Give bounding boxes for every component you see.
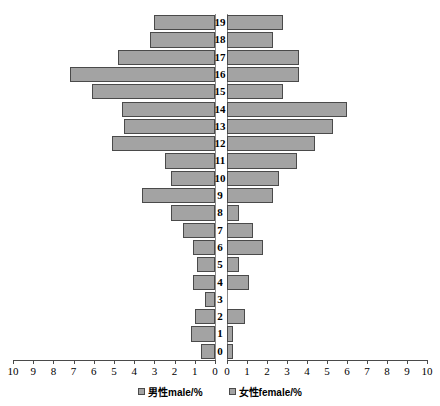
bar-female-age-11[interactable] (227, 153, 297, 168)
bar-male-age-9[interactable] (142, 188, 215, 203)
y-axis-tick-label-age-3: 3 (209, 291, 231, 308)
table-row: 12 (0, 135, 440, 152)
y-axis-tick-label-age-6: 6 (209, 239, 231, 256)
y-axis-tick-label-age-15: 15 (209, 83, 231, 100)
legend-label-female: 女性female/% (239, 384, 302, 399)
table-row: 2 (0, 308, 440, 325)
x-axis-tick-left-5 (114, 360, 115, 364)
x-axis-label-right-1: 1 (237, 365, 257, 377)
bar-male-age-19[interactable] (154, 15, 215, 30)
table-row: 16 (0, 66, 440, 83)
x-axis-tick-left-2 (175, 360, 176, 364)
x-axis-label-left-2: 2 (165, 365, 185, 377)
x-axis-tick-right-5 (327, 360, 328, 364)
bar-male-age-18[interactable] (150, 32, 215, 47)
y-axis-tick-label-age-16: 16 (209, 66, 231, 83)
y-axis-tick-label-age-13: 13 (209, 118, 231, 135)
bar-male-age-16[interactable] (70, 67, 215, 82)
table-row: 11 (0, 152, 440, 169)
table-row: 13 (0, 118, 440, 135)
bar-female-age-19[interactable] (227, 15, 283, 30)
table-row: 19 (0, 14, 440, 31)
x-axis-tick-right-6 (347, 360, 348, 364)
x-axis-label-left-9: 9 (23, 365, 43, 377)
x-axis-label-right-8: 8 (377, 365, 397, 377)
y-axis-tick-label-age-7: 7 (209, 222, 231, 239)
x-axis-label-left-4: 4 (124, 365, 144, 377)
x-axis-tick-right-2 (267, 360, 268, 364)
bar-female-age-6[interactable] (227, 240, 263, 255)
bar-female-age-14[interactable] (227, 102, 347, 117)
x-axis-tick-right-4 (307, 360, 308, 364)
x-axis-label-right-10: 10 (417, 365, 437, 377)
x-axis-tick-right-10 (427, 360, 428, 364)
bar-female-age-9[interactable] (227, 188, 273, 203)
bar-female-age-13[interactable] (227, 119, 333, 134)
y-axis-tick-label-age-4: 4 (209, 274, 231, 291)
table-row: 0 (0, 343, 440, 360)
y-axis-tick-label-age-9: 9 (209, 187, 231, 204)
x-axis-label-left-5: 5 (104, 365, 124, 377)
bar-male-age-17[interactable] (118, 50, 215, 65)
table-row: 1 (0, 325, 440, 342)
plot-area: 012345678910111213141516171819 (0, 0, 440, 362)
y-axis-tick-label-age-10: 10 (209, 170, 231, 187)
bar-male-age-15[interactable] (92, 84, 215, 99)
table-row: 6 (0, 239, 440, 256)
x-axis-label-right-6: 6 (337, 365, 357, 377)
table-row: 7 (0, 222, 440, 239)
x-axis-tick-left-1 (195, 360, 196, 364)
x-axis-tick-right-0 (227, 360, 228, 364)
x-axis-label-left-10: 10 (3, 365, 23, 377)
y-axis-tick-label-age-5: 5 (209, 256, 231, 273)
y-axis-tick-label-age-17: 17 (209, 49, 231, 66)
bar-male-age-13[interactable] (124, 119, 215, 134)
x-axis-tick-right-9 (407, 360, 408, 364)
y-axis-tick-label-age-14: 14 (209, 101, 231, 118)
x-axis-label-right-5: 5 (317, 365, 337, 377)
table-row: 14 (0, 101, 440, 118)
x-axis-tick-right-3 (287, 360, 288, 364)
table-row: 15 (0, 83, 440, 100)
x-axis-label-right-9: 9 (397, 365, 417, 377)
x-axis-tick-left-7 (74, 360, 75, 364)
x-axis-tick-left-8 (53, 360, 54, 364)
bar-female-age-15[interactable] (227, 84, 283, 99)
y-axis-tick-label-age-1: 1 (209, 325, 231, 342)
x-axis-label-right-2: 2 (257, 365, 277, 377)
table-row: 8 (0, 204, 440, 221)
bar-male-age-12[interactable] (112, 136, 215, 151)
bar-female-age-12[interactable] (227, 136, 315, 151)
table-row: 10 (0, 170, 440, 187)
x-axis-label-left-1: 1 (185, 365, 205, 377)
table-row: 17 (0, 49, 440, 66)
legend-swatch-female-icon (229, 388, 236, 395)
y-axis-tick-label-age-19: 19 (209, 14, 231, 31)
x-axis-label-left-3: 3 (144, 365, 164, 377)
y-axis-tick-label-age-8: 8 (209, 204, 231, 221)
x-axis-tick-right-8 (387, 360, 388, 364)
y-axis-tick-label-age-12: 12 (209, 135, 231, 152)
bar-male-age-11[interactable] (165, 153, 216, 168)
bar-female-age-18[interactable] (227, 32, 273, 47)
x-axis-label-left-8: 8 (43, 365, 63, 377)
x-axis-tick-right-7 (367, 360, 368, 364)
bar-female-age-16[interactable] (227, 67, 299, 82)
legend-item-male[interactable]: 男性male/% (138, 384, 202, 399)
x-axis-tick-left-4 (134, 360, 135, 364)
bar-female-age-10[interactable] (227, 171, 279, 186)
x-axis-label-left-6: 6 (84, 365, 104, 377)
legend-item-female[interactable]: 女性female/% (229, 384, 302, 399)
x-axis-label-right-0: 0 (217, 365, 237, 377)
x-axis-tick-left-6 (94, 360, 95, 364)
x-axis-tick-left-10 (13, 360, 14, 364)
x-axis-tick-left-9 (33, 360, 34, 364)
bar-male-age-14[interactable] (122, 102, 215, 117)
x-axis-tick-left-0 (215, 360, 216, 364)
x-axis-label-right-4: 4 (297, 365, 317, 377)
chart-legend: 男性male/% 女性female/% (0, 384, 440, 399)
x-axis-label-right-3: 3 (277, 365, 297, 377)
bar-female-age-17[interactable] (227, 50, 299, 65)
table-row: 3 (0, 291, 440, 308)
table-row: 5 (0, 256, 440, 273)
